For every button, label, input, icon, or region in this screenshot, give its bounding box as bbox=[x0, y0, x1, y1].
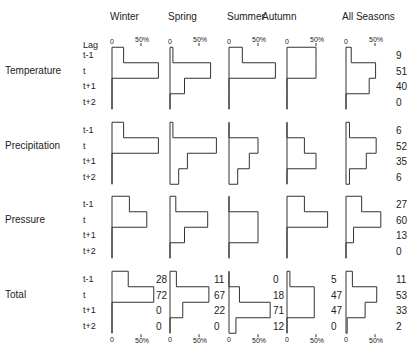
value-label: 2 bbox=[396, 321, 402, 332]
tick-label-zero: 0 bbox=[344, 38, 348, 45]
tick-label-50: 50% bbox=[369, 36, 383, 43]
bar-t+1 bbox=[287, 153, 316, 169]
bar-t-1 bbox=[287, 271, 290, 287]
tick-label-zero: 0 bbox=[110, 336, 114, 343]
value-label: 11 bbox=[396, 274, 407, 285]
lag-label: t-1 bbox=[83, 50, 94, 60]
tick-label-zero: 0 bbox=[168, 336, 172, 343]
value-label: 6 bbox=[396, 172, 402, 183]
lag-label: t bbox=[83, 215, 86, 225]
value-label: 0 bbox=[331, 321, 337, 332]
bar-t-1 bbox=[346, 271, 352, 287]
tick-label-50: 50% bbox=[252, 36, 266, 43]
lag-label: t bbox=[83, 290, 86, 300]
value-label: 0 bbox=[396, 246, 402, 257]
lag-label: t+2 bbox=[83, 321, 96, 331]
value-label: 52 bbox=[396, 141, 408, 152]
lag-label: t+2 bbox=[83, 246, 96, 256]
bar-t-1 bbox=[112, 271, 128, 287]
tick-label-50: 50% bbox=[135, 337, 149, 344]
value-label: 22 bbox=[214, 305, 226, 316]
lag-header: Lag bbox=[83, 40, 98, 50]
value-label: 13 bbox=[396, 230, 408, 241]
bar-t bbox=[229, 63, 275, 79]
tick-label-zero: 0 bbox=[227, 336, 231, 343]
season-header-autumn: Autumn bbox=[262, 11, 296, 22]
variable-label-pressure: Pressure bbox=[5, 214, 45, 225]
bar-t-1 bbox=[112, 196, 129, 212]
bar-t+1 bbox=[346, 227, 354, 243]
season-header-summer: Summer bbox=[227, 11, 265, 22]
tick-label-50: 50% bbox=[193, 337, 207, 344]
bar-t bbox=[112, 287, 154, 303]
tick-label-zero: 0 bbox=[110, 38, 114, 45]
tick-label-zero: 0 bbox=[285, 38, 289, 45]
value-label: 5 bbox=[331, 274, 337, 285]
bar-t bbox=[229, 287, 239, 303]
tick-label-50: 50% bbox=[310, 36, 324, 43]
bar-t bbox=[229, 138, 258, 154]
value-label: 6 bbox=[396, 125, 402, 136]
bar-t+2 bbox=[346, 169, 349, 185]
tick-label-zero: 0 bbox=[168, 38, 172, 45]
lag-label: t-1 bbox=[83, 274, 94, 284]
lag-label: t+1 bbox=[83, 81, 96, 91]
tick-label-50: 50% bbox=[252, 337, 266, 344]
tick-label-50: 50% bbox=[193, 36, 207, 43]
value-label: 9 bbox=[396, 50, 402, 61]
bar-t+1 bbox=[170, 153, 187, 169]
variable-label-temperature: Temperature bbox=[5, 65, 62, 76]
bar-t+1 bbox=[170, 78, 185, 94]
bar-t-1 bbox=[170, 271, 176, 287]
value-label: 11 bbox=[214, 274, 225, 285]
bar-t bbox=[170, 287, 209, 303]
tick-label-zero: 0 bbox=[344, 336, 348, 343]
bar-t bbox=[287, 212, 328, 228]
value-label: 71 bbox=[273, 305, 285, 316]
lag-label: t-1 bbox=[83, 125, 94, 135]
lag-label: t bbox=[83, 66, 86, 76]
bar-t+1 bbox=[229, 153, 249, 169]
bar-t+1 bbox=[346, 153, 366, 169]
tick-label-50: 50% bbox=[369, 337, 383, 344]
tick-label-zero: 0 bbox=[285, 336, 289, 343]
bar-t bbox=[229, 212, 258, 228]
bar-t bbox=[346, 212, 381, 228]
bar-t-1 bbox=[287, 196, 304, 212]
bar-t-1 bbox=[346, 196, 362, 212]
variable-label-total: Total bbox=[5, 289, 26, 300]
value-label: 27 bbox=[396, 199, 408, 210]
bar-t bbox=[346, 138, 376, 154]
bar-t+2 bbox=[170, 169, 179, 185]
lag-label: t bbox=[83, 141, 86, 151]
season-header-spring: Spring bbox=[168, 11, 197, 22]
value-label: 40 bbox=[396, 81, 408, 92]
value-label: 47 bbox=[331, 305, 343, 316]
tick-label-50: 50% bbox=[310, 337, 324, 344]
bar-t+1 bbox=[287, 302, 314, 318]
value-label: 51 bbox=[396, 66, 408, 77]
season-header-winter: Winter bbox=[110, 11, 140, 22]
bar-t-1 bbox=[170, 196, 176, 212]
value-label: 12 bbox=[273, 321, 285, 332]
tick-label-50: 50% bbox=[135, 36, 149, 43]
lag-label: t+1 bbox=[83, 230, 96, 240]
lag-label: t+1 bbox=[83, 156, 96, 166]
value-label: 67 bbox=[214, 290, 226, 301]
value-label: 0 bbox=[273, 274, 279, 285]
bar-t+1 bbox=[346, 78, 369, 94]
bar-t+2 bbox=[229, 169, 238, 185]
bar-t+1 bbox=[229, 302, 270, 318]
bar-t bbox=[112, 63, 158, 79]
bar-t bbox=[170, 138, 216, 154]
bar-t-1 bbox=[170, 47, 173, 63]
value-label: 53 bbox=[396, 290, 408, 301]
lag-label: t+1 bbox=[83, 305, 96, 315]
bar-t-1 bbox=[112, 47, 124, 63]
bar-t+2 bbox=[229, 318, 236, 334]
bar-t+1 bbox=[170, 227, 185, 243]
bar-t-1 bbox=[170, 122, 173, 138]
bar-t bbox=[287, 63, 316, 79]
value-label: 28 bbox=[156, 274, 168, 285]
bar-t bbox=[287, 138, 304, 154]
